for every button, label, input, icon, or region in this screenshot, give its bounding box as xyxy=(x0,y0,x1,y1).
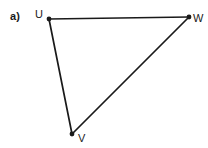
triangle-diagram xyxy=(0,0,208,148)
edge-u-v xyxy=(49,19,72,134)
edge-u-w xyxy=(49,17,189,19)
vertex-label-v: V xyxy=(78,133,86,144)
vertex-dot-w xyxy=(187,15,192,20)
vertex-dot-v xyxy=(70,132,75,137)
vertex-label-w: W xyxy=(193,13,204,24)
part-label: a) xyxy=(10,11,20,22)
vertex-dot-u xyxy=(47,17,52,22)
triangle-edges xyxy=(49,17,189,134)
edge-v-w xyxy=(72,17,189,134)
vertex-label-u: U xyxy=(35,9,43,20)
figure-canvas: a) U W V xyxy=(0,0,208,148)
